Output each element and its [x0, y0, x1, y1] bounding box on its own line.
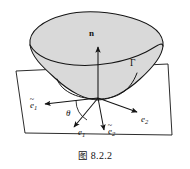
- curve-gamma-label: Γ: [130, 59, 136, 69]
- normal-vector-label: n: [89, 29, 94, 38]
- tilde-accent-icon: ~: [30, 96, 34, 104]
- e1-tilde-subscript: 1: [34, 104, 37, 111]
- e1-label: e1: [78, 128, 85, 138]
- e2-tilde-label: ~ e 2: [108, 127, 115, 137]
- figure-caption: 图 8.2.2: [0, 148, 190, 162]
- caption-prefix: 图: [78, 150, 88, 161]
- e1-subscript: 1: [82, 131, 85, 138]
- surface-diagram-svg: [0, 0, 190, 169]
- e1-tilde-label: ~ e 1: [30, 101, 37, 111]
- caption-number: 8.2.2: [91, 150, 113, 161]
- tilde-accent-icon: ~: [108, 122, 112, 130]
- e1-tilde-accent-wrap: ~ e: [30, 101, 34, 110]
- e2-subscript: 2: [145, 118, 148, 125]
- e2-tilde-subscript: 2: [112, 130, 115, 137]
- e2-label: e2: [141, 115, 148, 125]
- figure-container: n Γ θ ~ e 1 e1 ~ e 2 e2 图 8.2.2: [0, 0, 190, 169]
- angle-theta-label: θ: [66, 109, 70, 118]
- e2-tilde-accent-wrap: ~ e: [108, 127, 112, 136]
